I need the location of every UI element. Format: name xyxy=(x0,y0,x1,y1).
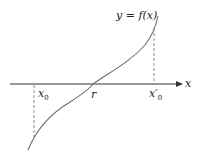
x0-prime-text: x′ xyxy=(149,87,158,100)
diagram-canvas xyxy=(0,0,199,163)
point-label-x0-prime: x′0 xyxy=(149,88,162,102)
axis-label-x: x xyxy=(185,78,191,89)
point-label-x0: x0 xyxy=(38,88,49,102)
x0-subscript: 0 xyxy=(44,94,48,102)
x-axis-arrowhead-icon xyxy=(176,81,183,87)
point-label-r: r xyxy=(91,89,96,100)
newton-method-diagram: y = f(x) x x0 r x′0 xyxy=(0,0,199,163)
curve-label: y = f(x) xyxy=(116,10,157,21)
x0-prime-subscript: 0 xyxy=(158,94,162,102)
curve-f xyxy=(28,16,158,150)
